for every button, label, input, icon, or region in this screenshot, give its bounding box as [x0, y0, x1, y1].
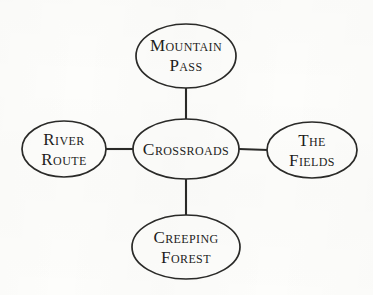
node-creeping-forest[interactable]: Creeping Forest — [132, 215, 240, 279]
node-mountain-pass-label-line2: Pass — [169, 56, 202, 75]
node-mountain-pass[interactable]: Mountain Pass — [136, 24, 236, 88]
edge-center-the-fields — [239, 149, 268, 150]
node-crossroads[interactable]: Crossroads — [133, 119, 239, 179]
node-the-fields[interactable]: The Fields — [267, 122, 357, 178]
node-graph: Mountain Pass River Route Crossroads The… — [0, 0, 373, 295]
node-river-route-label-line1: River — [43, 130, 84, 149]
node-river-route-label-line2: Route — [41, 150, 86, 169]
node-the-fields-label-line1: The — [298, 131, 326, 150]
diagram-canvas: Mountain Pass River Route Crossroads The… — [0, 0, 373, 295]
node-mountain-pass-label-line1: Mountain — [150, 36, 222, 55]
node-creeping-forest-label-line1: Creeping — [153, 228, 218, 247]
node-the-fields-label-line2: Fields — [289, 151, 335, 170]
node-river-route[interactable]: River Route — [22, 121, 106, 177]
node-creeping-forest-shape — [132, 215, 240, 279]
node-crossroads-label: Crossroads — [143, 139, 229, 159]
node-creeping-forest-label-line2: Forest — [161, 248, 211, 267]
